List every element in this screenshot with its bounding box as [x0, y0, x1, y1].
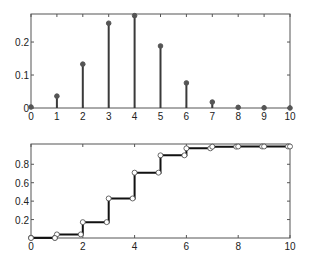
- x-tick-label: 10: [284, 241, 296, 252]
- x-tick-label: 3: [106, 111, 112, 122]
- stem-marker: [288, 106, 293, 111]
- y-tick-label: 0.8: [15, 159, 29, 170]
- cdf-marker: [78, 232, 83, 237]
- x-tick-label: 0: [28, 111, 34, 122]
- stem-marker: [210, 100, 215, 105]
- y-tick-label: 0.2: [15, 37, 29, 48]
- cdf-marker: [182, 153, 187, 158]
- y-tick-label: 0.1: [15, 70, 29, 81]
- stem-marker: [132, 13, 137, 18]
- stem-marker: [106, 21, 111, 26]
- stem-marker: [184, 81, 189, 86]
- cdf-marker: [262, 144, 267, 149]
- cdf-marker: [106, 196, 111, 201]
- cdf-marker: [236, 144, 241, 149]
- x-tick-label: 4: [132, 241, 138, 252]
- x-tick-label: 2: [80, 241, 86, 252]
- x-tick-label: 8: [235, 111, 241, 122]
- x-tick-label: 7: [210, 111, 216, 122]
- x-tick-label: 1: [54, 111, 60, 122]
- y-tick-label: 0.2: [15, 215, 29, 226]
- cdf-marker: [156, 170, 161, 175]
- x-tick-label: 9: [261, 111, 267, 122]
- cdf-step-plot: 02468100.20.40.60.8: [15, 144, 296, 252]
- cdf-marker: [132, 170, 137, 175]
- cdf-marker: [158, 153, 163, 158]
- cdf-marker: [210, 144, 215, 149]
- cdf-marker: [29, 236, 34, 241]
- x-tick-label: 0: [28, 241, 34, 252]
- cdf-step-line: [31, 146, 290, 237]
- x-tick-label: 8: [235, 241, 241, 252]
- x-tick-label: 6: [184, 111, 190, 122]
- cdf-marker: [288, 144, 293, 149]
- stem-marker: [236, 105, 241, 110]
- cdf-marker: [80, 220, 85, 225]
- y-tick-label: 0.6: [15, 178, 29, 189]
- cdf-marker: [130, 196, 135, 201]
- stem-marker: [158, 44, 163, 49]
- stem-marker: [81, 62, 86, 67]
- figure: 01234567891000.10.202468100.20.40.60.8: [0, 0, 312, 265]
- x-tick-label: 6: [184, 241, 190, 252]
- x-tick-label: 4: [132, 111, 138, 122]
- pmf-stem-plot: 01234567891000.10.2: [15, 13, 296, 122]
- stem-marker: [55, 94, 60, 99]
- stem-marker: [29, 105, 34, 110]
- cdf-marker: [104, 220, 109, 225]
- x-tick-label: 5: [158, 111, 164, 122]
- y-tick-label: 0.4: [15, 196, 29, 207]
- y-tick-label: 0: [23, 103, 29, 114]
- cdf-marker: [184, 146, 189, 151]
- stem-marker: [262, 106, 267, 111]
- cdf-marker: [52, 236, 57, 241]
- x-tick-label: 10: [284, 111, 296, 122]
- x-tick-label: 2: [80, 111, 86, 122]
